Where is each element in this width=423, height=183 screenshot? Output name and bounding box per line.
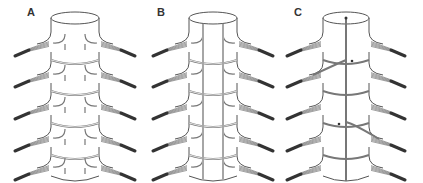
nerve-root-right-2: [121, 81, 135, 87]
vessel-branch-up: [53, 97, 65, 106]
cord-top-ellipse: [189, 12, 237, 24]
nerve-root-right-1: [391, 50, 405, 56]
panel-b: B: [141, 0, 282, 183]
vessel-branch-up: [191, 158, 203, 167]
nerve-root-left-1: [15, 50, 29, 56]
vessel-branch-up: [223, 97, 235, 106]
nerve-root-left-5: [287, 174, 301, 180]
artery-top-dot: [345, 17, 348, 20]
vessel-branch-up: [85, 129, 97, 138]
nerve-root-right-4: [121, 145, 135, 151]
vessel-branch-up: [53, 65, 65, 74]
nerve-root-left-1: [153, 50, 167, 56]
cord-top-ellipse: [51, 12, 99, 24]
vessel-branch-up: [223, 158, 235, 167]
nerve-root-right-5: [259, 174, 273, 180]
nerve-root-right-3: [121, 113, 135, 119]
vessel-branch-up: [223, 65, 235, 74]
feeder-dot-left: [351, 60, 354, 63]
vessel-branch-up: [85, 97, 97, 106]
nerve-root-right-5: [121, 174, 135, 180]
vessel-branch-up: [191, 129, 203, 138]
nerve-root-right-4: [259, 145, 273, 151]
nerve-root-left-5: [15, 174, 29, 180]
nerve-root-left-2: [287, 81, 301, 87]
nerve-root-left-4: [153, 145, 167, 151]
nerve-root-left-1: [287, 50, 301, 56]
cord-bottom-edge: [189, 176, 237, 181]
vessel-branch-up: [191, 65, 203, 74]
vessel-branch-up: [53, 34, 65, 43]
vessel-branch-up: [223, 129, 235, 138]
spinal-cord-diagram-c: [282, 0, 423, 183]
nerve-root-left-4: [287, 145, 301, 151]
nerve-root-left-3: [153, 113, 167, 119]
vessel-branch-up: [85, 34, 97, 43]
spinal-cord-diagram-a: [0, 0, 141, 183]
nerve-root-right-3: [391, 113, 405, 119]
nerve-root-left-2: [153, 81, 167, 87]
nerve-root-right-3: [259, 113, 273, 119]
nerve-root-left-4: [15, 145, 29, 151]
vessel-branch-up: [53, 129, 65, 138]
vessel-branch-up: [85, 65, 97, 74]
nerve-root-right-2: [259, 81, 273, 87]
nerve-root-right-5: [391, 174, 405, 180]
panel-a: A: [0, 0, 141, 183]
vessel-branch-up: [191, 34, 203, 43]
cord-bottom-edge: [51, 176, 99, 181]
panel-c: C: [282, 0, 423, 183]
nerve-root-left-3: [15, 113, 29, 119]
nerve-root-left-3: [287, 113, 301, 119]
vessel-branch-up: [223, 34, 235, 43]
nerve-root-left-5: [153, 174, 167, 180]
nerve-root-left-2: [15, 81, 29, 87]
vessel-branch-up: [85, 158, 97, 167]
feeder-dot-right: [338, 123, 341, 126]
vessel-branch-up: [53, 158, 65, 167]
nerve-root-right-4: [391, 145, 405, 151]
vessel-branch-up: [191, 97, 203, 106]
nerve-root-right-2: [391, 81, 405, 87]
nerve-root-right-1: [259, 50, 273, 56]
spinal-cord-diagram-b: [141, 0, 282, 183]
nerve-root-right-1: [121, 50, 135, 56]
